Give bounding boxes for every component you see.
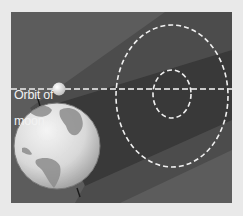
moon-icon bbox=[53, 83, 66, 96]
orbit-label-line2: moon bbox=[14, 114, 44, 128]
lunar-eclipse-diagram: Orbit of moon bbox=[0, 0, 243, 216]
orbit-of-moon-label: Orbit of moon bbox=[14, 76, 53, 128]
orbit-label-line1: Orbit of bbox=[14, 88, 53, 102]
